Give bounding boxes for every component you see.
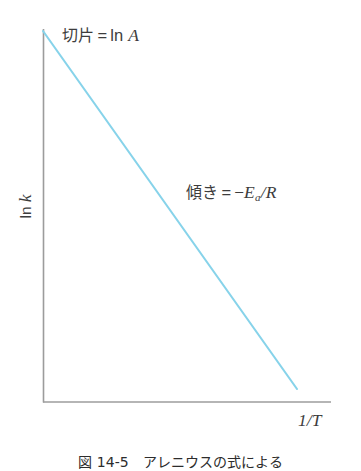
x-axis-title-t: T xyxy=(312,410,322,430)
slope-equals: = xyxy=(218,183,234,201)
figure-caption: 図 14-5 アレニウスの式による xyxy=(0,451,361,471)
slope-label: 傾き xyxy=(186,183,218,202)
slope-symbol-e: E xyxy=(244,182,255,202)
slope-symbol-r: R xyxy=(266,182,277,202)
intercept-equals: = xyxy=(94,26,110,44)
intercept-label: 切片 xyxy=(62,26,94,45)
slope-annotation: 傾き=−Ea/R xyxy=(186,184,277,203)
y-axis-title-k: k xyxy=(15,194,35,202)
y-axis-title-ln: ln xyxy=(17,202,34,218)
slope-minus-sign: − xyxy=(234,183,244,201)
x-axis-title: 1/T xyxy=(298,410,321,431)
y-axis-title: ln k xyxy=(15,195,36,219)
arrhenius-data-line xyxy=(43,31,297,389)
x-axis-title-oneover: 1/ xyxy=(298,410,312,430)
intercept-annotation: 切片=ln A xyxy=(62,27,139,45)
intercept-symbol-a: A xyxy=(128,25,139,45)
intercept-ln: ln xyxy=(110,26,128,44)
